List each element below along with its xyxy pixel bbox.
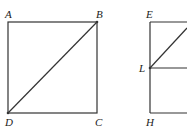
diagonal-from-l [150, 28, 187, 68]
label-a: A [4, 8, 12, 20]
label-l: L [138, 62, 145, 74]
diagonal-db [8, 22, 97, 113]
label-e: E [145, 8, 153, 20]
label-b: B [96, 8, 103, 20]
label-h: H [145, 116, 155, 128]
label-d: D [4, 116, 13, 128]
figure-ehl [150, 22, 187, 113]
geometry-diagram: A B C D E H L [0, 0, 187, 137]
point-b [96, 21, 99, 24]
square-abcd [8, 22, 97, 113]
label-c: C [95, 116, 103, 128]
point-d [7, 112, 10, 115]
point-l [149, 67, 152, 70]
